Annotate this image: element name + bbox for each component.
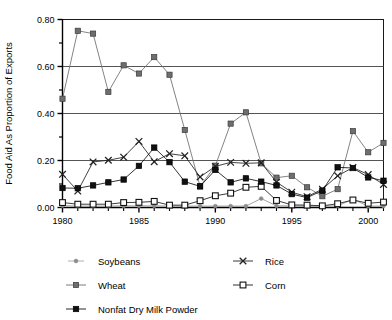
data-point xyxy=(243,184,249,190)
data-point xyxy=(381,199,387,205)
line-chart: 0.000.200.400.600.80 1980198519901995200… xyxy=(0,0,392,320)
data-point xyxy=(105,201,111,207)
data-point xyxy=(228,190,234,196)
data-point xyxy=(197,184,202,189)
data-point xyxy=(304,185,309,190)
data-point xyxy=(152,55,157,60)
data-point xyxy=(335,201,341,207)
data-point xyxy=(151,198,157,204)
y-tick-label: 0.80 xyxy=(37,15,55,25)
data-point xyxy=(350,129,355,134)
data-point xyxy=(182,179,187,184)
data-point xyxy=(350,197,356,203)
data-point xyxy=(366,175,371,180)
legend-label: Corn xyxy=(265,280,286,291)
data-point xyxy=(212,193,218,199)
x-tick-label: 1995 xyxy=(282,216,302,226)
data-point xyxy=(244,204,248,208)
data-point xyxy=(289,202,295,208)
y-tick-label: 0.60 xyxy=(37,62,55,72)
data-point xyxy=(274,183,279,188)
y-axis-title: Food Aid As Proportion of Exports xyxy=(3,42,14,185)
data-point xyxy=(213,167,218,172)
data-point xyxy=(320,194,325,199)
y-tick-label: 0.40 xyxy=(37,109,55,119)
data-point xyxy=(60,96,65,101)
data-point xyxy=(90,31,95,36)
data-point xyxy=(106,89,111,94)
data-point xyxy=(243,110,248,115)
data-point xyxy=(136,199,142,205)
legend-marker-icon xyxy=(240,282,246,288)
data-point xyxy=(274,198,280,204)
data-point xyxy=(304,202,310,208)
data-point xyxy=(381,140,386,145)
legend-label: Wheat xyxy=(98,280,126,291)
data-point xyxy=(167,159,172,164)
data-point xyxy=(350,165,355,170)
data-point xyxy=(75,201,81,207)
data-point xyxy=(197,198,203,204)
y-tick-label: 0.00 xyxy=(37,203,55,213)
data-point xyxy=(275,204,279,208)
data-point xyxy=(381,178,386,183)
data-point xyxy=(289,191,294,196)
data-point xyxy=(167,72,172,77)
data-point xyxy=(243,176,248,181)
legend-label: Rice xyxy=(265,256,284,267)
x-tick-label: 1990 xyxy=(205,216,225,226)
data-point xyxy=(320,188,325,193)
legend-label: Nonfat Dry Milk Powder xyxy=(98,304,198,315)
data-point xyxy=(90,183,95,188)
data-point xyxy=(366,150,371,155)
data-point xyxy=(335,165,340,170)
data-point xyxy=(106,180,111,185)
data-point xyxy=(213,204,217,208)
data-point xyxy=(228,121,233,126)
data-point xyxy=(121,200,127,206)
data-point xyxy=(289,173,294,178)
data-point xyxy=(304,195,309,200)
data-point xyxy=(75,28,80,33)
data-point xyxy=(198,204,202,208)
data-point xyxy=(228,180,233,185)
data-point xyxy=(136,71,141,76)
chart-figure: 0.000.200.400.600.80 1980198519901995200… xyxy=(0,0,392,320)
legend-marker-icon xyxy=(73,306,78,311)
data-point xyxy=(75,186,80,191)
data-point xyxy=(229,204,233,208)
y-tick-label: 0.20 xyxy=(37,156,55,166)
data-point xyxy=(60,185,65,190)
legend-marker-icon xyxy=(74,259,78,263)
data-point xyxy=(182,202,188,208)
data-point xyxy=(90,201,96,207)
data-point xyxy=(136,163,141,168)
y-axis-title-text: Food Aid As Proportion of Exports xyxy=(3,42,14,185)
data-point xyxy=(259,179,264,184)
data-point xyxy=(259,197,263,201)
x-tick-label: 2000 xyxy=(358,216,378,226)
x-tick-label: 1980 xyxy=(52,216,72,226)
data-point xyxy=(60,200,66,206)
data-point xyxy=(319,203,325,209)
x-tick-label: 1985 xyxy=(129,216,149,226)
data-point xyxy=(121,177,126,182)
data-point xyxy=(365,200,371,206)
data-point xyxy=(182,127,187,132)
data-point xyxy=(152,145,157,150)
data-point xyxy=(121,63,126,68)
legend-marker-icon xyxy=(73,282,78,287)
data-point xyxy=(167,202,173,208)
legend-label: Soybeans xyxy=(98,256,141,267)
data-point xyxy=(335,187,340,192)
